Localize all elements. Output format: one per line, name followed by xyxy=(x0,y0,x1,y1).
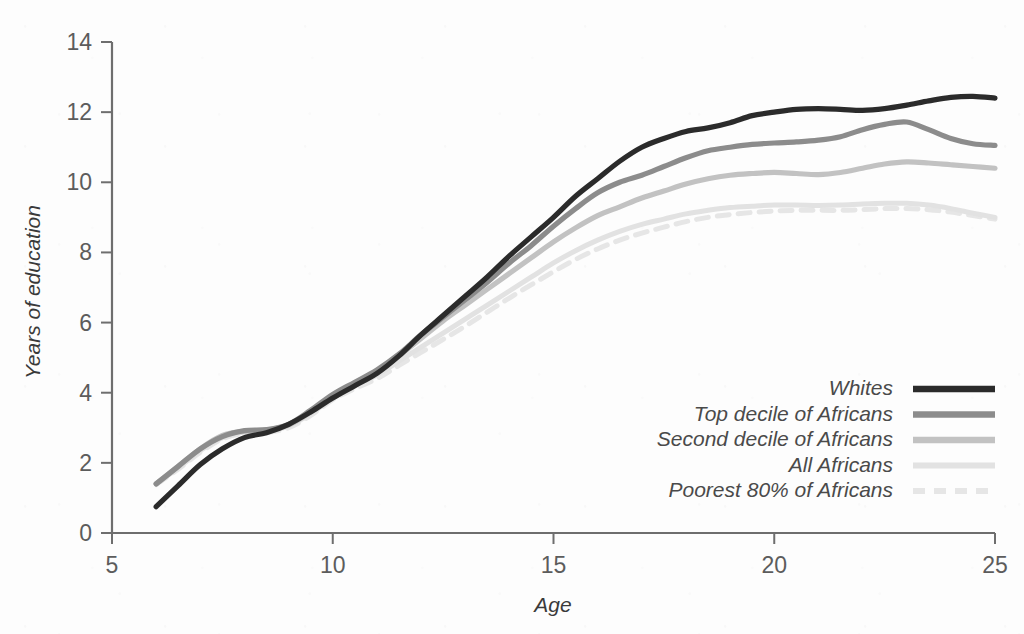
legend-item-label: Poorest 80% of Africans xyxy=(669,478,894,501)
y-tick-label: 14 xyxy=(66,29,92,55)
legend-item[interactable]: Poorest 80% of Africans xyxy=(669,478,996,501)
y-axis-tick-labels: 02468101214 xyxy=(66,29,92,546)
x-axis-ticks xyxy=(112,533,995,544)
x-tick-label: 15 xyxy=(541,552,567,578)
y-tick-label: 12 xyxy=(66,99,92,125)
y-axis-title: Years of education xyxy=(21,205,44,379)
y-tick-label: 4 xyxy=(79,380,92,406)
legend-item[interactable]: Whites xyxy=(829,376,995,399)
legend-item[interactable]: Top decile of Africans xyxy=(694,402,995,425)
legend-item-label: Whites xyxy=(829,376,894,399)
y-tick-label: 2 xyxy=(79,450,92,476)
x-tick-label: 10 xyxy=(320,552,346,578)
x-tick-label: 5 xyxy=(106,552,119,578)
x-axis-tick-labels: 510152025 xyxy=(106,552,1008,578)
y-axis-ticks xyxy=(101,42,112,533)
chart-page: 02468101214 510152025 Age Years of educa… xyxy=(0,0,1024,634)
legend-item-label: All Africans xyxy=(787,453,894,476)
legend-item[interactable]: Second decile of Africans xyxy=(657,427,995,450)
x-axis-title: Age xyxy=(532,593,571,616)
legend-item-label: Second decile of Africans xyxy=(657,427,894,450)
y-tick-label: 6 xyxy=(79,310,92,336)
y-tick-label: 8 xyxy=(79,239,92,265)
legend-item[interactable]: All Africans xyxy=(787,453,995,476)
legend-item-label: Top decile of Africans xyxy=(694,402,894,425)
education-by-age-line-chart: 02468101214 510152025 Age Years of educa… xyxy=(0,0,1024,634)
x-tick-label: 20 xyxy=(761,552,787,578)
y-tick-label: 0 xyxy=(79,520,92,546)
y-tick-label: 10 xyxy=(66,169,92,195)
x-tick-label: 25 xyxy=(982,552,1008,578)
chart-legend: WhitesTop decile of AfricansSecond decil… xyxy=(657,376,995,501)
